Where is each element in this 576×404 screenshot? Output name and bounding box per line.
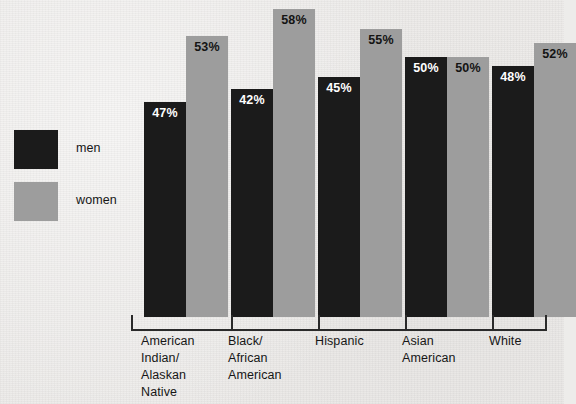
- bar-women-american-indian: 53%: [186, 36, 228, 317]
- axis-baseline: [131, 329, 547, 331]
- bar-value-men-hispanic: 45%: [318, 82, 360, 96]
- bar-value-women-black-african-american: 58%: [273, 14, 315, 28]
- legend-label-women: women: [76, 193, 117, 207]
- plot-area: 47% 53% 42% 58% 45% 55% 50%: [131, 0, 547, 317]
- bar-men-american-indian: 47%: [144, 102, 186, 317]
- bar-group-asian-american: 50% 50%: [405, 0, 489, 317]
- axis-tick-5: [545, 315, 547, 331]
- category-label-hispanic: Hispanic: [315, 333, 364, 350]
- bar-value-men-white: 48%: [492, 71, 534, 85]
- bar-group-black-african-american: 42% 58%: [231, 0, 315, 317]
- legend-swatch-women-icon: [14, 182, 58, 221]
- bar-value-women-hispanic: 55%: [360, 34, 402, 48]
- axis-tick-4: [492, 315, 494, 331]
- category-label-white: White: [489, 333, 521, 350]
- x-axis: [131, 315, 547, 331]
- bar-group-white: 48% 52%: [492, 0, 576, 317]
- legend-label-men: men: [76, 141, 101, 155]
- bar-women-asian-american: 50%: [447, 57, 489, 317]
- bar-value-women-white: 52%: [534, 48, 576, 62]
- bar-men-black-african-american: 42%: [231, 89, 273, 317]
- bar-women-white: 52%: [534, 43, 576, 317]
- bar-group-american-indian: 47% 53%: [144, 0, 228, 317]
- category-label-american-indian: American Indian/ Alaskan Native: [141, 333, 195, 401]
- bar-value-men-american-indian: 47%: [144, 107, 186, 121]
- axis-tick-1: [231, 315, 233, 331]
- axis-tick-0: [131, 315, 133, 331]
- axis-tick-3: [405, 315, 407, 331]
- category-labels: American Indian/ Alaskan Native Black/ A…: [131, 333, 561, 403]
- bar-men-white: 48%: [492, 66, 534, 317]
- bar-value-women-asian-american: 50%: [447, 62, 489, 76]
- bar-women-black-african-american: 58%: [273, 9, 315, 317]
- bar-women-hispanic: 55%: [360, 29, 402, 317]
- bar-group-hispanic: 45% 55%: [318, 0, 402, 317]
- legend-swatch-men-icon: [14, 130, 58, 169]
- category-label-black-african-american: Black/ African American: [228, 333, 282, 384]
- category-label-asian-american: Asian American: [402, 333, 456, 367]
- bar-men-asian-american: 50%: [405, 57, 447, 317]
- bar-men-hispanic: 45%: [318, 77, 360, 317]
- bar-value-women-american-indian: 53%: [186, 41, 228, 55]
- bar-value-men-asian-american: 50%: [405, 62, 447, 76]
- bar-value-men-black-african-american: 42%: [231, 94, 273, 108]
- axis-tick-2: [318, 315, 320, 331]
